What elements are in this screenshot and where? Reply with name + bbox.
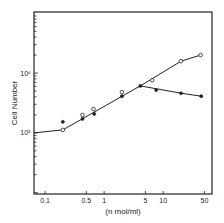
y-tick-label: 10⁶ [20,70,31,77]
filled-circles-point [155,88,158,91]
fitted-lines [34,55,201,133]
filled-circles-point [179,92,182,95]
y-axis: 10⁵10⁶ [20,16,38,193]
filled-circles-point [61,120,64,123]
filled-circles-point [93,112,96,115]
x-tick-label: 0.5 [81,197,91,204]
filled-circles-point [200,95,203,98]
x-tick-label: 50 [201,197,209,204]
open-circles-point [81,113,85,117]
x-axis: 0.10.5151050 [40,191,208,204]
open-circles-point [150,78,154,82]
x-tick-label: 5 [143,197,147,204]
open-circles-point [92,107,96,111]
filled-circles-point [139,84,142,87]
filled-circles-point [81,117,84,120]
y-axis-label: Cell Number [10,80,19,125]
open-circles-point [61,128,65,132]
y-tick-label: 10⁵ [20,129,31,136]
filled-circles-point [120,95,123,98]
x-tick-label: 10 [159,197,167,204]
x-tick-label: 0.1 [40,197,50,204]
open-circles-point [199,53,203,57]
data-markers [61,53,203,131]
open-circles-point [179,59,183,63]
filled-fit-line [140,86,201,96]
plot-frame [34,12,212,194]
chart: 0.10.5151050 10⁵10⁶ (n mol/ml) Cell Numb… [0,0,224,223]
x-tick-label: 1 [102,197,106,204]
common-and-open-fit-line [34,55,201,133]
open-circles-point [120,90,124,94]
x-axis-label: (n mol/ml) [105,207,141,216]
